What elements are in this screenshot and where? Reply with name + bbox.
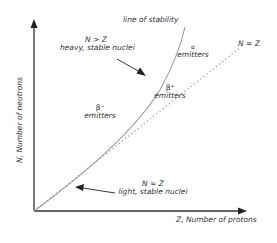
heavy-nuclei-annotation: N > Z heavy, stable nuclei [60,36,132,53]
diagram-graphics [0,0,277,243]
x-axis-title: Z, Number of protons [176,216,257,224]
heavy-arrow-icon [137,68,147,77]
y-axis-title: N, Number of neutrons [15,77,24,163]
light-nuclei-pointer [83,188,115,193]
alpha-region: α emitters [173,44,213,59]
y-axis-arrow-icon [31,19,38,28]
light-text: light, stable nuclei [118,188,188,196]
light-arrow-icon [75,184,84,191]
beta-minus-text: emitters [80,112,120,120]
beta-plus-region: β⁺ emitters [150,84,190,101]
light-nuclei-annotation: N ≈ Z light, stable nuclei [118,180,188,197]
heavy-nuclei-pointer [117,59,140,72]
heavy-text: heavy, stable nuclei [60,44,132,52]
nuclear-stability-diagram: N, Number of neutrons Z, Number of proto… [0,0,277,243]
line-of-stability-label: line of stability [123,16,178,24]
beta-plus-text: emitters [150,92,190,100]
beta-minus-region: β⁻ emitters [80,104,120,121]
x-axis-arrow-icon [238,208,247,215]
n-equals-z-label: N = Z [238,40,260,48]
alpha-text: emitters [173,51,213,59]
